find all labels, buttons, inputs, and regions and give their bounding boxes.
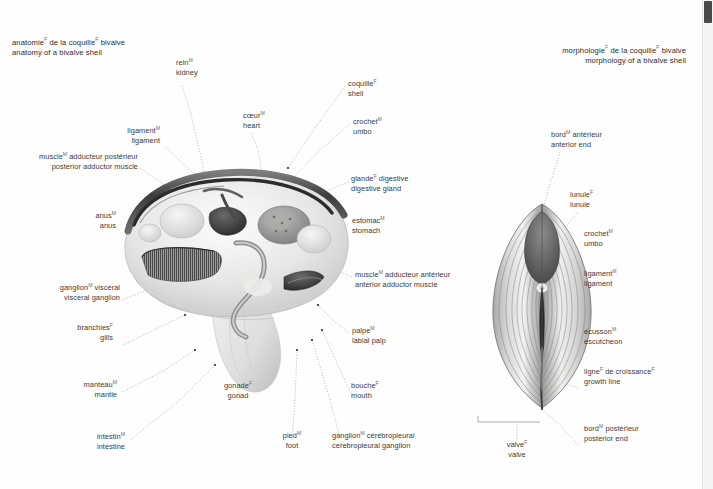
label-en: gonad (210, 391, 266, 401)
label-fr-rest: adducteur postérieur (67, 152, 138, 161)
label-fr-term: intestin (97, 432, 121, 441)
label-intestine: intestinMintestine (97, 432, 125, 452)
label-cerebropleural-ganglion: ganglionM cérébropleuralcerebropleural g… (332, 431, 415, 451)
label-fr: intestinM (97, 432, 125, 442)
label-en: anterior adductor muscle (355, 280, 450, 290)
label-fr: bordM postérieur (584, 424, 639, 434)
gender-marker: M (121, 431, 125, 437)
label-gills: branchiesFgills (77, 323, 113, 343)
label-fr: crochetM (584, 229, 613, 239)
gender-marker: F (651, 366, 654, 372)
diagram-page: anatomieF de la coquilleF bivalve anatom… (0, 0, 713, 489)
label-fr-term: ligament (584, 269, 612, 278)
gender-marker: F (376, 380, 379, 386)
label-anterior-adductor-muscle: muscleM adducteur antérieuranterior addu… (355, 270, 450, 290)
label-posterior-adductor-muscle: muscleM adducteur postérieurposterior ad… (39, 152, 138, 172)
label-gonad: gonadeFgonad (210, 381, 266, 401)
left-title-en: anatomy of a bivalve shell (12, 48, 125, 58)
label-fr: ligamentM (584, 269, 617, 279)
label-fr-term: muscle (39, 152, 63, 161)
label-fr: muscleM adducteur postérieur (39, 152, 138, 162)
label-en: posterior end (584, 434, 639, 444)
bivalve-shell-morphology-illustration (487, 196, 597, 416)
label-ligament: ligamentMligament (127, 126, 160, 146)
label-fr: lunuleF (570, 190, 593, 200)
label-en: visceral ganglion (60, 293, 120, 303)
label-digestive-gland: glandeF digestivedigestive gland (351, 174, 408, 194)
vertical-scrollbar-thumb[interactable] (704, 1, 712, 23)
label-fr-term: bord (551, 130, 566, 139)
label-en: umbo (353, 127, 382, 137)
label-fr-term: crochet (353, 117, 378, 126)
left-title-fr: anatomie (12, 38, 44, 47)
label-en: cerebropleural ganglion (332, 441, 415, 451)
label-anus: anusManus (95, 211, 116, 231)
label-fr-term: muscle (355, 270, 379, 279)
label-fr: muscleM adducteur antérieur (355, 270, 450, 280)
label-stomach: estomacMstomach (352, 216, 385, 236)
label-escutcheon: écussonMescutcheon (584, 327, 622, 347)
label-en: heart (243, 121, 265, 131)
gender-marker: F (524, 439, 527, 445)
label-umbo-left: crochetMumbo (353, 117, 382, 137)
gender-marker: M (612, 326, 616, 332)
label-fr-rest: postérieur (603, 424, 638, 433)
label-fr-term: branchies (77, 323, 110, 332)
label-en: valve (492, 450, 542, 460)
label-fr: estomacM (352, 216, 385, 226)
label-en: escutcheon (584, 337, 622, 347)
label-fr: palpeM (352, 326, 386, 336)
label-fr: gonadeF (210, 381, 266, 391)
gender-marker: M (156, 125, 160, 131)
label-fr: boucheF (351, 381, 379, 391)
label-en: labial palp (352, 336, 386, 346)
label-en: stomach (352, 226, 385, 236)
label-en: intestine (97, 442, 125, 452)
label-fr-rest: adducteur antérieur (383, 270, 450, 279)
label-fr: coquilleF (348, 79, 377, 89)
label-en: growth line (584, 377, 655, 387)
label-fr-term: glande (351, 174, 374, 183)
gender-marker: F (110, 322, 113, 328)
label-valve: valveFvalve (492, 440, 542, 460)
left-figure-title: anatomieF de la coquilleF bivalve anatom… (12, 38, 125, 59)
label-fr: ligneF de croissanceF (584, 367, 655, 377)
label-fr: ganglionM cérébropleural (332, 431, 415, 441)
label-en: lunule (570, 200, 593, 210)
label-fr: cœurM (243, 111, 265, 121)
label-shell: coquilleFshell (348, 79, 377, 99)
label-umbo-right: crochetMumbo (584, 229, 613, 249)
label-fr-term: écusson (584, 327, 612, 336)
gender-marker: M (370, 325, 374, 331)
label-fr-term: manteau (84, 380, 113, 389)
label-fr: reinM (176, 58, 198, 68)
vertical-scrollbar-track[interactable] (702, 0, 713, 489)
label-fr-term: rein (176, 58, 189, 67)
label-en: digestive gland (351, 184, 408, 194)
gender-marker: M (380, 215, 384, 221)
gender-marker: M (612, 268, 616, 274)
label-fr-term: lunule (570, 190, 590, 199)
label-en: mouth (351, 391, 379, 401)
gender-marker: F (373, 78, 376, 84)
label-fr: ligamentM (127, 126, 160, 136)
bivalve-anatomy-illustration (118, 165, 358, 400)
label-fr: ganglionM viscéral (60, 283, 120, 293)
label-fr: manteauM (84, 380, 117, 390)
label-fr-rest: de croissance (603, 367, 651, 376)
label-en: shell (348, 89, 377, 99)
label-fr: bordM antérieur (551, 130, 602, 140)
label-mantle: manteauMmantle (84, 380, 117, 400)
label-anterior-end: bordM antérieuranterior end (551, 130, 602, 150)
label-fr-term: estomac (352, 216, 380, 225)
gender-marker: M (112, 210, 116, 216)
label-fr-term: gonade (224, 381, 249, 390)
label-fr: anusM (95, 211, 116, 221)
label-fr: branchiesF (77, 323, 113, 333)
label-fr-rest: digestive (377, 174, 409, 183)
label-fr-term: bord (584, 424, 599, 433)
label-fr-rest: viscéral (92, 283, 120, 292)
label-labial-palp: palpeMlabial palp (352, 326, 386, 346)
label-en: mantle (84, 390, 117, 400)
gender-marker: M (609, 228, 613, 234)
